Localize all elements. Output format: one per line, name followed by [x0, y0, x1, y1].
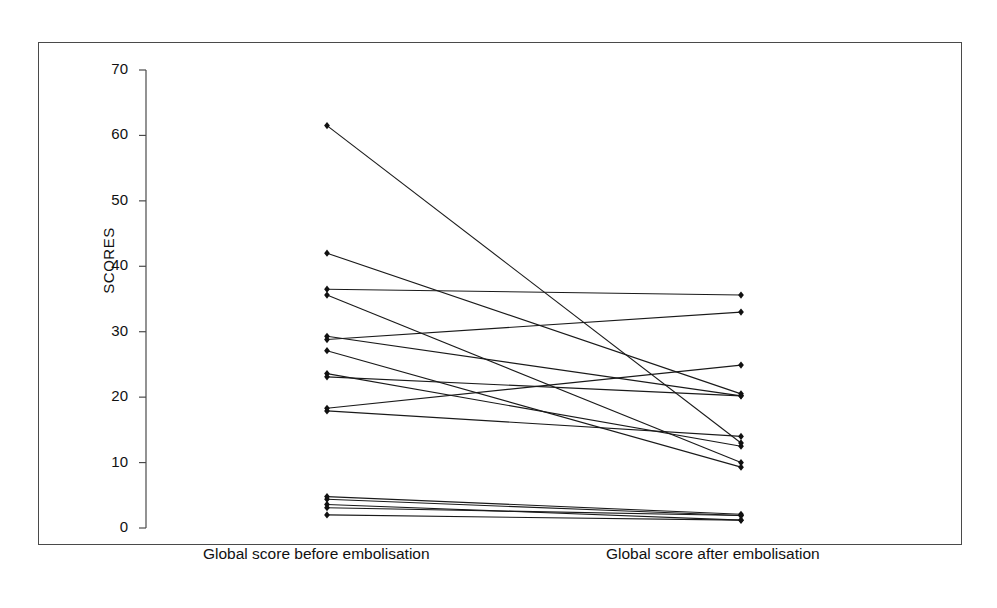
y-axis	[139, 70, 146, 528]
data-point-marker	[324, 511, 330, 518]
data-series-line	[324, 250, 744, 398]
series-segment	[327, 312, 741, 339]
y-axis-tick-label: 70	[88, 60, 128, 77]
series-segment	[327, 499, 741, 515]
y-axis-tick-label: 50	[88, 191, 128, 208]
y-axis-tick-label: 40	[88, 256, 128, 273]
data-series-line	[324, 291, 744, 466]
data-point-marker	[324, 250, 330, 257]
data-point-marker	[738, 464, 744, 471]
y-axis-tick-label: 20	[88, 387, 128, 404]
data-series-line	[324, 501, 744, 524]
y-axis-tick-label: 10	[88, 453, 128, 470]
series-segment	[327, 374, 741, 447]
data-series-line	[324, 407, 744, 440]
data-point-marker	[738, 308, 744, 315]
series-segment	[327, 126, 741, 443]
data-series-group	[324, 122, 744, 524]
data-series-line	[324, 122, 744, 447]
y-axis-tick-label: 0	[88, 518, 128, 535]
chart-figure: SCORES 010203040506070 Global score befo…	[0, 0, 997, 608]
data-point-marker	[738, 291, 744, 298]
x-axis-label-before: Global score before embolisation	[203, 545, 430, 563]
series-segment	[327, 289, 741, 295]
series-segment	[327, 411, 741, 437]
series-segment	[327, 253, 741, 394]
data-point-marker	[324, 122, 330, 129]
data-point-marker	[324, 347, 330, 354]
data-point-marker	[324, 291, 330, 298]
data-point-marker	[738, 361, 744, 368]
y-axis-ticks	[139, 70, 146, 528]
data-series-line	[324, 286, 744, 299]
x-axis-label-after: Global score after embolisation	[606, 545, 820, 563]
y-axis-tick-label: 30	[88, 322, 128, 339]
chart-plot-area	[0, 0, 997, 608]
y-axis-tick-label: 60	[88, 125, 128, 142]
data-point-marker	[738, 433, 744, 440]
data-series-line	[324, 308, 744, 343]
series-segment	[327, 351, 741, 467]
data-point-marker	[738, 517, 744, 524]
data-series-line	[324, 333, 744, 400]
series-segment	[327, 295, 741, 462]
